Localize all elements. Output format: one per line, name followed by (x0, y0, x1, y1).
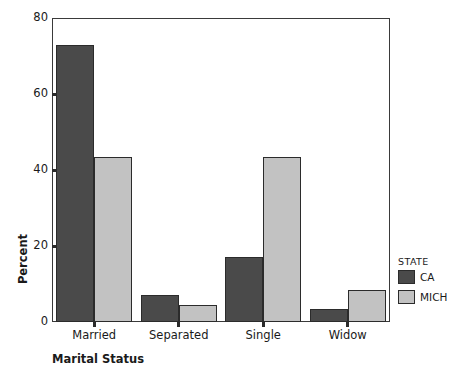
x-tick-label-widow: Widow (306, 329, 391, 342)
x-tick-label-single: Single (221, 329, 306, 342)
bar-separated-mich (179, 305, 217, 322)
bar-widow-ca (310, 309, 348, 322)
legend-title: STATE (398, 256, 456, 267)
x-tick-mark (262, 322, 265, 327)
y-tick-label: 40 (22, 164, 48, 176)
y-tick-label: 0 (22, 316, 48, 328)
bar-separated-ca (141, 295, 179, 322)
bar-chart: 020406080 Percent MarriedSeparatedSingle… (0, 0, 456, 379)
x-tick-mark (346, 322, 349, 327)
x-axis-title: Marital Status (52, 352, 144, 366)
y-axis-title: Percent (16, 214, 30, 304)
bar-single-mich (263, 157, 301, 322)
x-tick-mark (177, 322, 180, 327)
x-tick-label-married: Married (52, 329, 137, 342)
bars-layer (52, 18, 390, 322)
y-tick-label: 60 (22, 88, 48, 100)
legend-label-ca: CA (420, 271, 435, 283)
legend-entry-mich[interactable]: MICH (398, 290, 456, 304)
legend-swatch-ca (398, 270, 415, 284)
bar-widow-mich (348, 290, 386, 322)
y-axis: 020406080 (14, 0, 48, 379)
y-tick-label: 80 (22, 12, 48, 24)
bar-single-ca (225, 257, 263, 322)
bar-married-mich (94, 157, 132, 322)
legend-swatch-mich (398, 290, 415, 304)
legend: STATE CA MICH (398, 256, 456, 310)
legend-label-mich: MICH (420, 291, 447, 303)
bar-married-ca (56, 45, 94, 322)
x-tick-mark (93, 322, 96, 327)
legend-entry-ca[interactable]: CA (398, 270, 456, 284)
x-tick-label-separated: Separated (137, 329, 222, 342)
